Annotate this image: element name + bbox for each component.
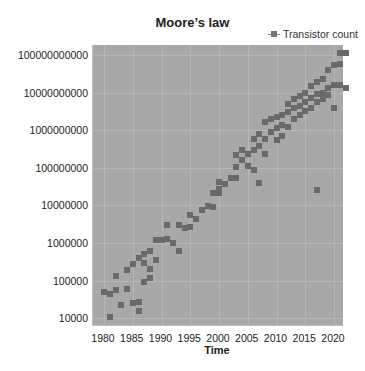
legend-label: Transistor count [283, 28, 358, 40]
data-point [233, 164, 239, 170]
grid-line-vertical [104, 45, 105, 325]
grid-line-vertical [277, 45, 278, 325]
data-point [193, 216, 199, 222]
data-point [107, 314, 113, 320]
y-tick-label: 1000000000 [0, 124, 88, 136]
y-tick-label: 10000 [0, 312, 88, 324]
data-point [343, 50, 349, 56]
data-point [331, 105, 337, 111]
x-tick-label: 2015 [293, 332, 316, 344]
data-point [124, 286, 130, 292]
data-point [136, 308, 142, 314]
data-point [170, 240, 176, 246]
data-point [308, 105, 314, 111]
grid-line-vertical [248, 45, 249, 325]
data-point [251, 167, 257, 173]
data-point [256, 143, 262, 149]
y-tick-label: 100000000 [0, 162, 88, 174]
grid-line-horizontal [93, 168, 343, 169]
data-point [325, 92, 331, 98]
data-point [233, 175, 239, 181]
data-point [337, 61, 343, 67]
y-tick-label: 1000000 [0, 237, 88, 249]
x-tick-label: 2005 [235, 332, 258, 344]
data-point [222, 181, 228, 187]
grid-line-vertical [133, 45, 134, 325]
grid-line-horizontal [93, 55, 343, 56]
data-point [279, 133, 285, 139]
legend: Transistor count [268, 28, 358, 40]
y-tick-label: 10000000000 [0, 87, 88, 99]
plot-area [92, 45, 343, 326]
data-point [113, 287, 119, 293]
data-point [153, 257, 159, 263]
x-tick-label: 2000 [206, 332, 229, 344]
data-point [343, 85, 349, 91]
grid-line-horizontal [93, 130, 343, 131]
data-point [262, 151, 268, 157]
data-point [124, 267, 130, 273]
grid-line-vertical [162, 45, 163, 325]
x-tick-label: 2020 [321, 332, 344, 344]
data-point [314, 187, 320, 193]
grid-line-horizontal [93, 243, 343, 244]
data-point [187, 224, 193, 230]
x-tick-label: 1995 [178, 332, 201, 344]
data-point [320, 76, 326, 82]
grid-line-horizontal [93, 205, 343, 206]
x-tick-label: 2010 [264, 332, 287, 344]
data-point [147, 275, 153, 281]
y-tick-label: 100000000000 [0, 49, 88, 61]
x-tick-label: 1985 [120, 332, 143, 344]
x-axis-label: Time [92, 344, 342, 356]
data-point [130, 261, 136, 267]
grid-line-horizontal [93, 281, 343, 282]
legend-marker-icon [268, 30, 280, 38]
y-tick-label: 100000 [0, 275, 88, 287]
data-point [118, 302, 124, 308]
grid-line-horizontal [93, 318, 343, 319]
data-point [239, 157, 245, 163]
x-tick-label: 1980 [91, 332, 114, 344]
data-point [262, 136, 268, 142]
grid-line-vertical [190, 45, 191, 325]
data-point [164, 222, 170, 228]
x-tick-label: 1990 [149, 332, 172, 344]
data-point [325, 67, 331, 73]
data-point [147, 266, 153, 272]
data-point [256, 180, 262, 186]
data-point [147, 248, 153, 254]
grid-line-vertical [305, 45, 306, 325]
y-tick-label: 10000000 [0, 199, 88, 211]
data-point [210, 204, 216, 210]
data-point [113, 273, 119, 279]
data-point [176, 248, 182, 254]
data-point [285, 124, 291, 130]
data-point [136, 299, 142, 305]
